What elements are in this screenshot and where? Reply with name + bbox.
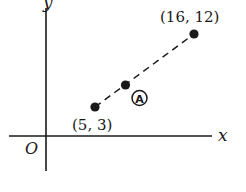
y-axis-label: y (42, 0, 53, 12)
point-5-3-label: (5, 3) (72, 116, 112, 134)
point-a (121, 80, 130, 89)
circled-a-label: A (135, 93, 144, 106)
origin-label: O (25, 139, 38, 158)
dashed-segment (95, 34, 194, 107)
point-16-12 (189, 29, 198, 38)
x-axis-label: x (218, 125, 228, 145)
coordinate-diagram: y x O (5, 3) (16, 12) A (0, 0, 246, 192)
point-5-3 (90, 102, 99, 111)
point-16-12-label: (16, 12) (160, 8, 219, 26)
